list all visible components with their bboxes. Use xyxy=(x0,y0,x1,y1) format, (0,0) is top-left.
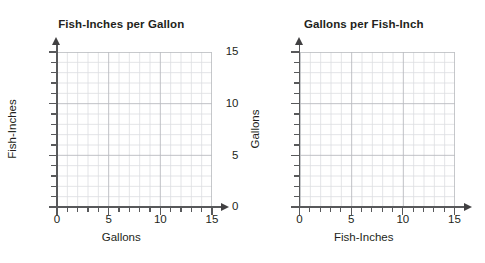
chart-panel-right: Gallons per Fish-Inch xyxy=(243,0,485,263)
x-axis-title-left: Gallons xyxy=(0,231,243,243)
x-tick-label: 15 xyxy=(206,213,219,225)
y-tick-label: 5 xyxy=(232,149,238,161)
y-tick-label: 10 xyxy=(226,97,239,109)
x-tick-label: 10 xyxy=(396,213,409,225)
x-axis-title-right: Fish-Inches xyxy=(243,231,485,243)
chart-panel-left: Fish-Inches per Gallon xyxy=(0,0,243,263)
x-tick-label: 5 xyxy=(105,213,111,225)
y-tick-label: 15 xyxy=(226,45,239,57)
x-tick-label: 15 xyxy=(448,213,461,225)
y-axis-title-right: Gallons xyxy=(249,110,261,149)
x-tick-label: 0 xyxy=(296,213,302,225)
y-axis-title-left: Fish-Inches xyxy=(6,99,18,158)
x-tick-label: 0 xyxy=(54,213,60,225)
charts-container: Fish-Inches per Gallon xyxy=(0,0,485,263)
x-tick-label: 10 xyxy=(154,213,167,225)
y-tick-label: 0 xyxy=(232,200,238,212)
x-tick-label: 5 xyxy=(348,213,354,225)
